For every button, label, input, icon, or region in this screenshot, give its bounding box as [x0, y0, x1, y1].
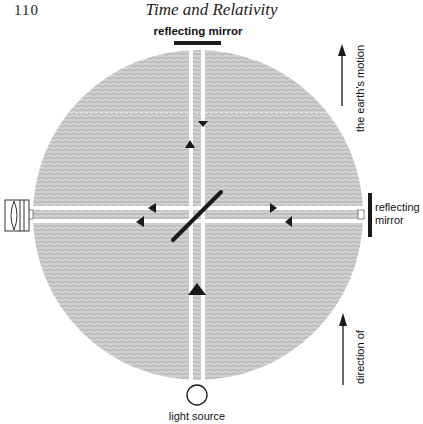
top-reflecting-mirror: [174, 41, 221, 45]
vertical-beam-right: [201, 48, 205, 383]
vertical-beam-left: [189, 48, 193, 383]
right-tube-end: [358, 210, 364, 219]
right-reflecting-mirror: [368, 193, 372, 237]
motion-arrow-upper-head: [338, 44, 346, 56]
horizontal-beam-bottom: [30, 219, 365, 223]
motion-label-lower: direction of: [354, 329, 366, 384]
light-source-icon: [187, 385, 207, 405]
interferometer-diagram: reflecting mirror reflecting mirror ligh…: [0, 0, 423, 424]
right-mirror-label-line2: mirror: [375, 214, 404, 226]
telescope-eyepiece-icon: [5, 200, 29, 231]
horizontal-beam-top: [30, 206, 365, 210]
motion-arrow-lower-head: [339, 313, 347, 326]
right-mirror-label-line1: reflecting: [375, 201, 420, 213]
motion-label-upper: the earth's motion: [354, 45, 366, 132]
light-source-label: light source: [169, 410, 225, 422]
top-mirror-label: reflecting mirror: [154, 25, 243, 37]
